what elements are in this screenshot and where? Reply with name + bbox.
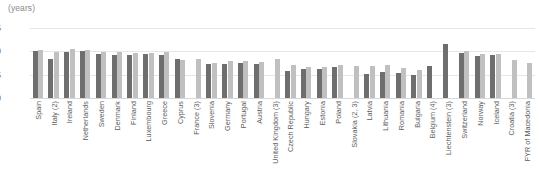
category-label: Ireland (65, 101, 74, 123)
bar-series-a (427, 66, 432, 98)
category-label-slot: Greece (156, 100, 172, 182)
category-label: Liechtenstein (3) (444, 101, 453, 155)
bar-series-b (401, 68, 406, 98)
category-label: Denmark (112, 101, 121, 131)
bar-group (172, 28, 188, 98)
category-label-slot: Latvia (361, 100, 377, 182)
bar-series-b (370, 66, 375, 98)
category-label-slot: Germany (219, 100, 235, 182)
category-label: Germany (223, 101, 232, 131)
bar-series-a (443, 44, 448, 98)
category-label: United Kingdom (3) (270, 101, 279, 164)
bar-series-b (196, 59, 201, 98)
bar-series-b (101, 52, 106, 98)
bar-series-b (54, 52, 59, 98)
bar-group (156, 28, 172, 98)
x-axis-category-labels: SpainItaly (2)IrelandNetherlandsSwedenDe… (30, 100, 535, 182)
bar-series-b (38, 50, 43, 98)
bar-group (219, 28, 235, 98)
category-label: Belgium (4) (428, 101, 437, 138)
bar-series-b (243, 61, 248, 98)
category-label-slot: Finland (125, 100, 141, 182)
category-label: FYR of Macedonia (523, 101, 532, 161)
category-label: Austria (254, 101, 263, 124)
bar-series-a (33, 51, 38, 98)
bar-group (377, 28, 393, 98)
category-label-slot: Romania (393, 100, 409, 182)
bar-series-a (159, 55, 164, 98)
bar-series-a (254, 64, 259, 98)
bar-group (298, 28, 314, 98)
bar-group (361, 28, 377, 98)
bar-group (314, 28, 330, 98)
category-label: Norway (475, 101, 484, 126)
category-label-slot: Croatia (3) (503, 100, 519, 182)
bar-series-a (80, 51, 85, 98)
bar-series-a (396, 73, 401, 98)
bar-group (251, 28, 267, 98)
category-label: Romania (396, 101, 405, 130)
bar-series-a (238, 63, 243, 98)
bar-series-b (338, 65, 343, 98)
bar-series-b (306, 67, 311, 98)
bar-series-a (490, 55, 495, 98)
bar-series-a (64, 52, 69, 98)
bar-group (109, 28, 125, 98)
category-label: Hungary (302, 101, 311, 129)
category-label-slot: Czech Republic (283, 100, 299, 182)
bar-series-b (480, 54, 485, 98)
bar-series-b (85, 50, 90, 98)
bar-series-a (96, 54, 101, 98)
bar-group (488, 28, 504, 98)
category-label: Slovakia (2, 3) (349, 101, 358, 148)
bar-group (46, 28, 62, 98)
bar-series-b (291, 65, 296, 98)
category-label-slot: Switzerland (456, 100, 472, 182)
category-label-slot: Iceland (488, 100, 504, 182)
category-label: Croatia (3) (507, 101, 516, 136)
bar-series-a (175, 59, 180, 98)
category-label: Bulgaria (412, 101, 421, 128)
bar-group (330, 28, 346, 98)
category-label: Iceland (491, 101, 500, 125)
bar-group (283, 28, 299, 98)
bar-group (204, 28, 220, 98)
category-label-slot: Sweden (93, 100, 109, 182)
bar-series-a (206, 64, 211, 98)
bar-group (346, 28, 362, 98)
category-label: Luxembourg (144, 101, 153, 141)
bar-series-b (133, 53, 138, 98)
bar-group (456, 28, 472, 98)
category-label-slot: Netherlands (77, 100, 93, 182)
bar-group (235, 28, 251, 98)
category-label-slot: Estonia (314, 100, 330, 182)
bar-group (503, 28, 519, 98)
bar-series-a (285, 71, 290, 98)
category-label-slot: Slovakia (2, 3) (346, 100, 362, 182)
category-label-slot: FYR of Macedonia (519, 100, 535, 182)
x-axis-baseline (30, 98, 535, 99)
category-label-slot: France (3) (188, 100, 204, 182)
bar-group (440, 28, 456, 98)
category-label: Spain (33, 101, 42, 120)
category-label-slot: Norway (472, 100, 488, 182)
bar-group (77, 28, 93, 98)
bar-series-container (30, 28, 535, 98)
category-label: Poland (333, 101, 342, 124)
bar-series-b (164, 52, 169, 98)
y-axis-tick-label: 20 (0, 93, 1, 103)
category-label: Portugal (239, 101, 248, 128)
category-label-slot: Austria (251, 100, 267, 182)
bar-group (93, 28, 109, 98)
bar-series-b (275, 59, 280, 98)
bar-series-b (149, 53, 154, 98)
bar-chart: (years) 20253035 SpainItaly (2)IrelandNe… (0, 0, 540, 185)
category-label: Czech Republic (286, 101, 295, 152)
bar-series-a (459, 53, 464, 98)
bar-series-b (180, 60, 185, 98)
bar-group (519, 28, 535, 98)
bar-series-a (317, 69, 322, 98)
bar-series-b (70, 49, 75, 98)
bar-group (393, 28, 409, 98)
category-label: Netherlands (81, 101, 90, 140)
